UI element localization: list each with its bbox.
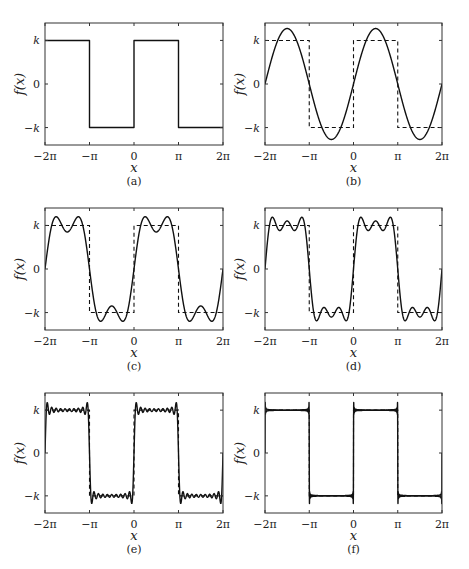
x-tick-label: −2π: [253, 335, 276, 348]
y-tick-label: k: [253, 219, 260, 232]
x-tick-label: −π: [301, 518, 317, 531]
y-tick-label: k: [253, 34, 260, 47]
x-tick-label: 2π: [435, 150, 449, 163]
x-axis-label: x: [130, 160, 138, 175]
x-tick-label: −2π: [253, 518, 276, 531]
y-tick-label: k: [253, 404, 260, 417]
y-axis-label: f(x): [12, 258, 27, 281]
y-tick-label: k: [33, 34, 40, 47]
x-tick-label: π: [175, 518, 182, 531]
x-tick-label: −2π: [33, 335, 56, 348]
y-axis-label: f(x): [12, 73, 27, 96]
x-tick-label: 2π: [216, 518, 230, 531]
x-tick-label: −π: [81, 335, 97, 348]
y-tick-label: 0: [33, 447, 40, 460]
x-axis-label: x: [350, 345, 358, 360]
y-axis-label: f(x): [12, 442, 27, 465]
y-tick-label: −k: [244, 307, 260, 320]
x-tick-label: −π: [301, 150, 317, 163]
y-tick-label: k: [33, 404, 40, 417]
panel-caption: (a): [126, 175, 141, 188]
x-tick-label: −π: [81, 150, 97, 163]
y-tick-label: 0: [253, 263, 260, 276]
x-tick-label: π: [394, 518, 401, 531]
panel-caption: (d): [346, 360, 362, 373]
y-tick-label: 0: [33, 78, 40, 91]
fourier-sum-line: [265, 402, 442, 503]
panel-b: −2π−π0π2πk0−kxf(x)(b): [232, 23, 449, 188]
figure: −2π−π0π2πk0−kxf(x)(a)−2π−π0π2πk0−kxf(x)(…: [0, 0, 469, 569]
y-tick-label: k: [33, 219, 40, 232]
x-tick-label: −π: [81, 518, 97, 531]
x-axis-label: x: [130, 345, 138, 360]
x-tick-label: 2π: [435, 518, 449, 531]
panel-e: −2π−π0π2πk0−kxf(x)(e): [12, 393, 230, 556]
x-tick-label: −2π: [33, 150, 56, 163]
x-tick-label: 2π: [435, 335, 449, 348]
panel-caption: (f): [347, 543, 360, 556]
x-tick-label: −π: [301, 335, 317, 348]
y-axis-label: f(x): [232, 258, 247, 281]
y-tick-label: −k: [24, 490, 40, 503]
y-axis-label: f(x): [232, 442, 247, 465]
y-tick-label: 0: [33, 263, 40, 276]
x-axis-label: x: [350, 528, 358, 543]
x-tick-label: π: [175, 335, 182, 348]
x-tick-label: π: [394, 335, 401, 348]
x-tick-label: −2π: [253, 150, 276, 163]
square-wave-line: [45, 40, 223, 127]
y-tick-label: −k: [24, 307, 40, 320]
y-tick-label: −k: [244, 122, 260, 135]
fourier-sum-line: [265, 29, 442, 140]
panel-a: −2π−π0π2πk0−kxf(x)(a): [12, 23, 230, 188]
panel-caption: (e): [126, 543, 141, 556]
x-tick-label: 2π: [216, 150, 230, 163]
panel-caption: (b): [346, 175, 362, 188]
y-tick-label: −k: [244, 490, 260, 503]
x-tick-label: 2π: [216, 335, 230, 348]
panel-f: −2π−π0π2πk0−kxf(x)(f): [232, 393, 449, 556]
x-tick-label: −2π: [33, 518, 56, 531]
y-tick-label: 0: [253, 447, 260, 460]
x-tick-label: π: [175, 150, 182, 163]
x-tick-label: π: [394, 150, 401, 163]
x-axis-label: x: [350, 160, 358, 175]
y-tick-label: −k: [24, 122, 40, 135]
panel-caption: (c): [127, 360, 142, 373]
panel-d: −2π−π0π2πk0−kxf(x)(d): [232, 208, 449, 373]
x-axis-label: x: [130, 528, 138, 543]
y-tick-label: 0: [253, 78, 260, 91]
panel-c: −2π−π0π2πk0−kxf(x)(c): [12, 208, 230, 373]
y-axis-label: f(x): [232, 73, 247, 96]
